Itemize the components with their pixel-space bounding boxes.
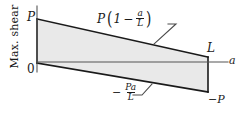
- shear-region-fill: [37, 19, 208, 92]
- top-label-leader-line: [154, 24, 176, 44]
- upper-annotation-open-paren: (: [107, 11, 112, 27]
- upper-annotation-minus: −: [121, 13, 135, 25]
- upper-annotation-close-paren: ): [146, 11, 151, 27]
- y-axis-bottom-label: −P: [208, 94, 225, 105]
- lower-annotation-numerator: Pa: [124, 83, 137, 92]
- x-axis-variable-label: a: [229, 55, 236, 66]
- lower-annotation-denominator: L: [127, 92, 135, 102]
- upper-annotation-numerator: a: [137, 9, 144, 18]
- upper-shear-annotation: P ( 1 − a L ): [97, 9, 153, 29]
- upper-annotation-fraction: a L: [136, 9, 144, 29]
- shear-diagram-figure: Max. shear P 0 L a −P P ( 1 − a L ) − Pa…: [0, 0, 244, 114]
- origin-label: 0: [27, 63, 35, 75]
- y-axis-title: Max. shear: [8, 1, 21, 73]
- lower-annotation-minus: −: [110, 87, 123, 98]
- y-axis-top-label: P: [27, 11, 35, 23]
- upper-annotation-lead: P: [97, 13, 106, 25]
- upper-annotation-denominator: L: [136, 18, 144, 28]
- x-axis-end-label: L: [207, 42, 215, 54]
- lower-shear-annotation: − Pa L: [110, 83, 138, 103]
- lower-annotation-fraction: Pa L: [124, 83, 137, 103]
- upper-annotation-one: 1: [114, 13, 122, 25]
